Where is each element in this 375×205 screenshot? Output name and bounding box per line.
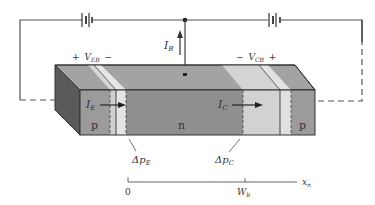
- delta-pc-label: ΔpC: [214, 154, 234, 167]
- emitter-region-label: p: [91, 119, 98, 132]
- ib-arrow-icon: [177, 30, 183, 55]
- pnp-transistor-diagram: IB + VEB − − VCB + IE: [0, 0, 375, 205]
- base-region-label: n: [178, 119, 185, 132]
- xn-axis: [128, 177, 297, 182]
- emitter-depletion-region-2: [116, 90, 126, 135]
- delta-pe-label: ΔpE: [131, 154, 151, 167]
- base-contact: [183, 73, 187, 76]
- collector-depletion-region: [243, 90, 280, 135]
- veb-label: + VEB −: [72, 52, 112, 64]
- vcb-label: − VCB +: [236, 52, 276, 64]
- dpc-leader-line: [229, 139, 240, 152]
- axis-xn-label: xn: [302, 177, 311, 188]
- collector-region-label: p: [299, 119, 306, 132]
- axis-wb-label: Wb: [237, 187, 250, 198]
- collector-contact-wire: [318, 42, 362, 101]
- dpe-leader-line: [129, 139, 136, 151]
- ib-label: IB: [163, 39, 174, 53]
- axis-origin-label: 0: [125, 187, 131, 197]
- battery-vcb-icon: [269, 13, 280, 27]
- collector-depletion-region-2: [280, 90, 291, 135]
- emitter-depletion-region: [110, 90, 116, 135]
- battery-veb-icon: [80, 13, 92, 27]
